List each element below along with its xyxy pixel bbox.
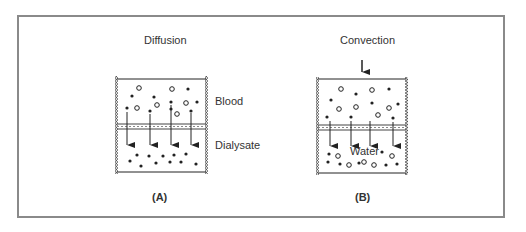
large-solutes xyxy=(135,86,189,117)
diffusion-arrows xyxy=(127,105,191,145)
membrane xyxy=(117,124,206,129)
large-solutes xyxy=(336,87,395,168)
diffusion-chamber xyxy=(115,76,208,174)
diagram-drawing xyxy=(0,0,526,232)
convection-chamber xyxy=(316,60,408,175)
small-solutes xyxy=(125,87,198,167)
